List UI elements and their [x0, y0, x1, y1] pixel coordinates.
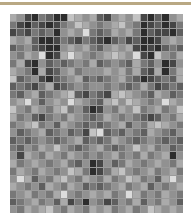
- grid-cell: [170, 129, 176, 136]
- grid-cell: [170, 114, 176, 121]
- grid-cell: [162, 145, 168, 152]
- grid-cell: [17, 52, 23, 59]
- grid-cell: [54, 29, 60, 36]
- grid-cell: [148, 122, 154, 129]
- grid-cell: [177, 76, 183, 83]
- grid-cell: [61, 137, 67, 144]
- grid-cell: [112, 106, 118, 113]
- grid-cell: [177, 160, 183, 167]
- grid-cell: [97, 199, 103, 206]
- grid-cell: [25, 83, 31, 90]
- grid-cell: [133, 199, 139, 206]
- grid-cell: [177, 206, 183, 213]
- grid-cell: [46, 122, 52, 129]
- grid-cell: [54, 52, 60, 59]
- grid-cell: [155, 183, 161, 190]
- grid-cell: [97, 160, 103, 167]
- grid-cell: [126, 199, 132, 206]
- grid-cell: [155, 176, 161, 183]
- grid-cell: [126, 91, 132, 98]
- grid-cell: [61, 114, 67, 121]
- grid-cell: [126, 145, 132, 152]
- grid-cell: [39, 29, 45, 36]
- grid-cell: [141, 122, 147, 129]
- grid-cell: [112, 137, 118, 144]
- grid-cell: [148, 145, 154, 152]
- grid-cell: [112, 191, 118, 198]
- grid-cell: [46, 176, 52, 183]
- grid-cell: [17, 176, 23, 183]
- grid-cell: [112, 99, 118, 106]
- grid-cell: [104, 45, 110, 52]
- grid-cell: [126, 137, 132, 144]
- grid-cell: [61, 191, 67, 198]
- grid-cell: [39, 14, 45, 21]
- grid-cell: [90, 145, 96, 152]
- grid-cell: [104, 137, 110, 144]
- grid-cell: [133, 122, 139, 129]
- grid-cell: [32, 68, 38, 75]
- grid-cell: [170, 152, 176, 159]
- grid-cell: [112, 22, 118, 29]
- grid-cell: [155, 152, 161, 159]
- grid-cell: [141, 183, 147, 190]
- grid-cell: [25, 137, 31, 144]
- grid-cell: [25, 145, 31, 152]
- grid-cell: [32, 106, 38, 113]
- grid-cell: [68, 145, 74, 152]
- grid-cell: [104, 99, 110, 106]
- grid-cell: [155, 137, 161, 144]
- grid-cell: [133, 76, 139, 83]
- grid-cell: [133, 60, 139, 67]
- grid-cell: [126, 60, 132, 67]
- grid-cell: [162, 14, 168, 21]
- grid-cell: [61, 160, 67, 167]
- grid-cell: [162, 176, 168, 183]
- grid-cell: [119, 52, 125, 59]
- grid-cell: [17, 14, 23, 21]
- grid-cell: [148, 76, 154, 83]
- grid-cell: [162, 99, 168, 106]
- grid-cell: [54, 160, 60, 167]
- grid-cell: [162, 52, 168, 59]
- grid-cell: [126, 45, 132, 52]
- grid-cell: [177, 168, 183, 175]
- grid-cell: [133, 106, 139, 113]
- grid-cell: [83, 145, 89, 152]
- grid-cell: [61, 183, 67, 190]
- grid-cell: [133, 114, 139, 121]
- grid-cell: [32, 114, 38, 121]
- grid-cell: [170, 14, 176, 21]
- grid-cell: [112, 206, 118, 213]
- grid-cell: [133, 99, 139, 106]
- grid-cell: [32, 168, 38, 175]
- grid-cell: [97, 122, 103, 129]
- grid-cell: [177, 91, 183, 98]
- grid-cell: [90, 29, 96, 36]
- grid-cell: [32, 206, 38, 213]
- grid-cell: [17, 152, 23, 159]
- grid-cell: [112, 83, 118, 90]
- grid-cell: [141, 176, 147, 183]
- grid-cell: [46, 106, 52, 113]
- grid-cell: [68, 14, 74, 21]
- grid-cell: [133, 145, 139, 152]
- grid-cell: [133, 22, 139, 29]
- grid-cell: [170, 176, 176, 183]
- top-rule: [0, 2, 191, 5]
- grid-cell: [112, 183, 118, 190]
- grid-cell: [119, 22, 125, 29]
- grid-cell: [39, 106, 45, 113]
- grid-cell: [97, 60, 103, 67]
- grid-cell: [133, 14, 139, 21]
- grid-cell: [61, 176, 67, 183]
- grid-cell: [126, 206, 132, 213]
- grid-cell: [39, 99, 45, 106]
- grid-cell: [126, 29, 132, 36]
- grid-cell: [68, 114, 74, 121]
- grid-cell: [32, 160, 38, 167]
- grid-cell: [177, 60, 183, 67]
- grid-cell: [54, 191, 60, 198]
- grid-cell: [68, 76, 74, 83]
- grid-cell: [46, 168, 52, 175]
